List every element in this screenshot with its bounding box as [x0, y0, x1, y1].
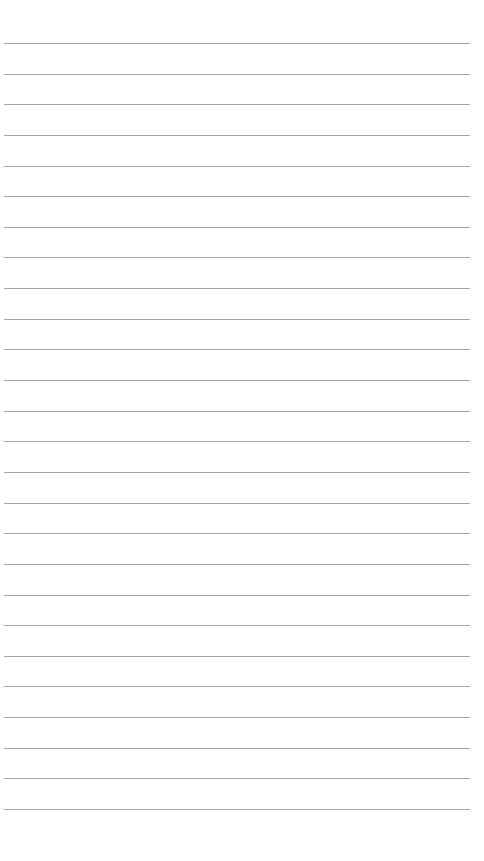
ruled-line	[4, 74, 470, 75]
ruled-line	[4, 533, 470, 534]
ruled-line	[4, 564, 470, 565]
ruled-line	[4, 380, 470, 381]
ruled-line	[4, 503, 470, 504]
ruled-line	[4, 196, 470, 197]
ruled-line	[4, 319, 470, 320]
ruled-line	[4, 288, 470, 289]
ruled-line	[4, 778, 470, 779]
ruled-line	[4, 472, 470, 473]
ruled-line	[4, 349, 470, 350]
ruled-line	[4, 166, 470, 167]
ruled-line	[4, 411, 470, 412]
ruled-line	[4, 809, 470, 810]
ruled-line	[4, 595, 470, 596]
ruled-line	[4, 748, 470, 749]
ruled-line	[4, 104, 470, 105]
ruled-line	[4, 656, 470, 657]
ruled-line	[4, 43, 470, 44]
ruled-line	[4, 135, 470, 136]
ruled-line	[4, 686, 470, 687]
ruled-line	[4, 717, 470, 718]
ruled-line	[4, 625, 470, 626]
ruled-line	[4, 257, 470, 258]
ruled-line	[4, 441, 470, 442]
ruled-line	[4, 227, 470, 228]
